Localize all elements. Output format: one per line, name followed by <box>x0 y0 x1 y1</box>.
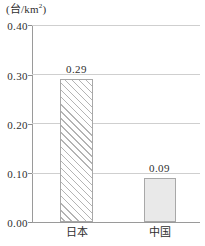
y-tick-label-020: 0.20 <box>7 120 28 131</box>
unit-caption: (台/km2) <box>6 2 46 16</box>
gridline-040 <box>32 25 200 26</box>
bar-japan <box>60 79 93 222</box>
gridline-020 <box>32 123 200 124</box>
unit-caption-text: (台/km <box>6 3 39 15</box>
unit-caption-tail: ) <box>42 3 46 15</box>
y-tick-label-030: 0.30 <box>7 71 28 82</box>
x-axis-line <box>32 222 200 223</box>
bar-china <box>144 178 176 222</box>
y-tick-label-010: 0.10 <box>7 169 28 180</box>
category-label-china: 中国 <box>137 226 182 240</box>
value-label-japan: 0.29 <box>54 64 99 75</box>
category-label-japan: 日本 <box>54 226 99 240</box>
value-label-china: 0.09 <box>137 163 182 174</box>
y-tick-label-040: 0.40 <box>7 21 28 32</box>
y-tick-label-000: 0.00 <box>7 218 28 229</box>
plot-area <box>32 25 200 222</box>
bar-chart: (台/km2) 0.40 0.30 0.20 0.10 0.00 0.29 0.… <box>0 0 205 246</box>
